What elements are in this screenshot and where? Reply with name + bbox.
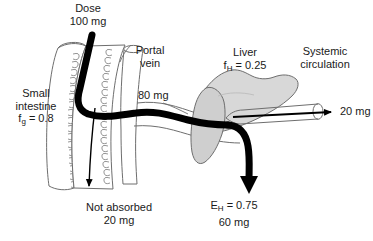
liver-label-line1: Liver xyxy=(224,46,267,59)
systemic-label-line2: circulation xyxy=(300,58,350,71)
fh-equals: = 0.25 xyxy=(232,59,266,71)
hepatic-extraction-amount: 60 mg xyxy=(210,216,257,229)
dose-label-line2: 100 mg xyxy=(70,15,107,28)
not-absorbed-label: Not absorbed 20 mg xyxy=(86,201,152,226)
not-absorbed-label-line1: Not absorbed xyxy=(86,201,152,214)
eh-value: EH = 0.75 xyxy=(210,199,257,216)
small-intestine-label: Small intestine fg = 0.8 xyxy=(16,87,57,129)
fg-value: fg = 0.8 xyxy=(16,112,57,129)
first-pass-metabolism-diagram: Dose 100 mg Small intestine fg = 0.8 Por… xyxy=(0,0,373,241)
drug-path-hepatic-extraction xyxy=(228,125,249,180)
hepatic-extraction-arrowhead xyxy=(240,176,258,194)
small-intestine-label-line2: intestine xyxy=(16,100,57,113)
eh-equals: = 0.75 xyxy=(224,199,258,211)
systemic-circulation-label: Systemic circulation xyxy=(300,45,350,70)
dose-label-line1: Dose xyxy=(70,2,107,15)
fg-equals: = 0.8 xyxy=(26,112,54,124)
portal-vein-label-line2: vein xyxy=(136,57,165,70)
small-intestine-label-line1: Small xyxy=(16,87,57,100)
systemic-vessel-opening xyxy=(313,104,323,120)
portal-amount-label: 80 mg xyxy=(138,89,169,102)
not-absorbed-label-line2: 20 mg xyxy=(86,214,152,227)
systemic-label-line1: Systemic xyxy=(300,45,350,58)
portal-vein-label: Portal vein xyxy=(136,44,165,69)
systemic-amount-label: 20 mg xyxy=(340,105,371,118)
portal-vein-label-line1: Portal xyxy=(136,44,165,57)
fh-value: fH = 0.25 xyxy=(224,59,267,76)
hepatic-extraction-label: EH = 0.75 60 mg xyxy=(210,199,257,228)
dose-label: Dose 100 mg xyxy=(70,2,107,27)
liver-label: Liver fH = 0.25 xyxy=(224,46,267,75)
